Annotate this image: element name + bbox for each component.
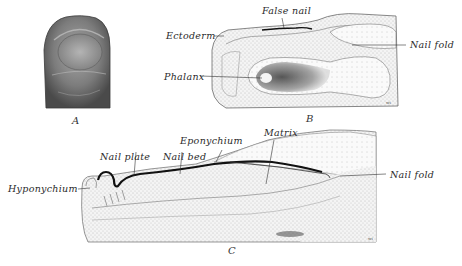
panel-c-section: wi (82, 130, 376, 242)
panel-letter-b: B (306, 114, 313, 124)
panel-b-section: wi (212, 14, 398, 108)
label-matrix: Matrix (264, 128, 298, 138)
svg-text:wi: wi (368, 236, 373, 241)
label-false-nail: False nail (262, 6, 311, 16)
label-hyponychium: Hyponychium (8, 184, 78, 194)
svg-text:wi: wi (386, 100, 391, 105)
panel-letter-a: A (72, 116, 79, 126)
label-nail-bed: Nail bed (163, 152, 206, 162)
label-ectoderm: Ectoderm (166, 31, 215, 41)
panel-letter-c: C (228, 246, 236, 256)
label-nail-fold-b: Nail fold (410, 40, 454, 50)
label-phalanx: Phalanx (164, 72, 204, 82)
illustration-canvas: wi wi (0, 0, 462, 266)
nail-development-figure: wi wi (0, 0, 462, 266)
panel-a-fingertip (44, 16, 110, 108)
label-eponychium: Eponychium (180, 136, 243, 146)
label-nail-plate: Nail plate (100, 152, 150, 162)
label-nail-fold-c: Nail fold (390, 170, 434, 180)
